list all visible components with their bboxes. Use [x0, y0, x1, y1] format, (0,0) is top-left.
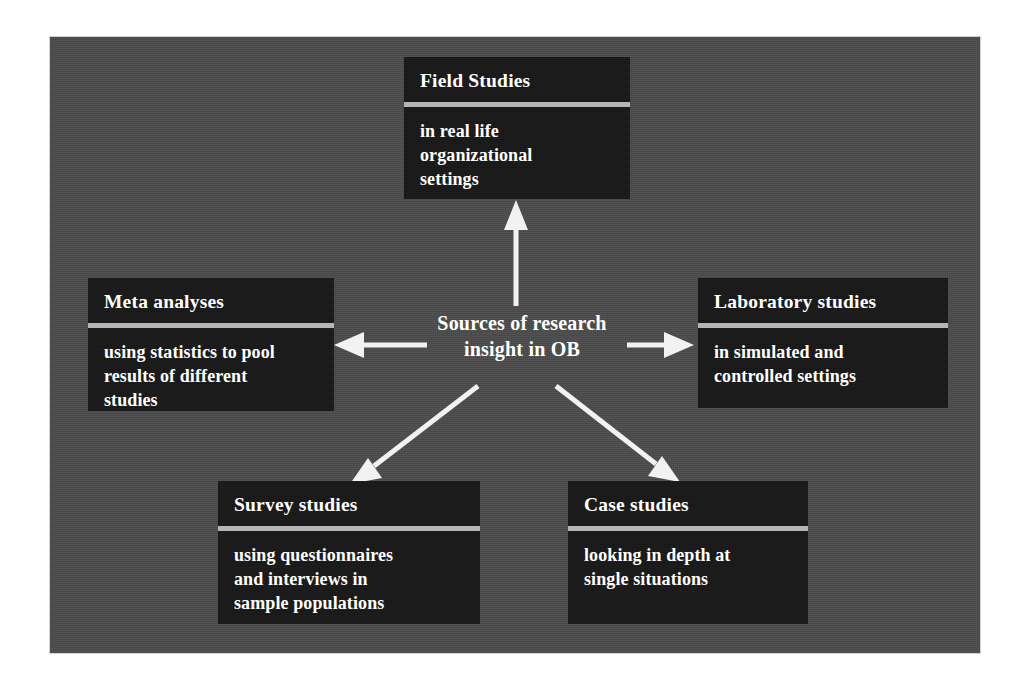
node-case-studies-body: looking in depth at single situations — [568, 531, 808, 604]
node-laboratory-studies-body: in simulated and controlled settings — [698, 328, 948, 401]
node-field-studies-body: in real life organizational settings — [404, 107, 630, 199]
node-survey-studies-body: using questionnaires and interviews in s… — [218, 531, 480, 624]
node-laboratory-studies[interactable]: Laboratory studies in simulated and cont… — [698, 278, 948, 408]
node-meta-analyses-title: Meta analyses — [88, 278, 334, 323]
node-field-studies[interactable]: Field Studies in real life organizationa… — [404, 57, 630, 199]
node-meta-analyses-body: using statistics to pool results of diff… — [88, 328, 334, 411]
node-laboratory-studies-title: Laboratory studies — [698, 278, 948, 323]
node-survey-studies[interactable]: Survey studies using questionnaires and … — [218, 481, 480, 624]
node-meta-analyses[interactable]: Meta analyses using statistics to pool r… — [88, 278, 334, 411]
node-case-studies[interactable]: Case studies looking in depth at single … — [568, 481, 808, 624]
node-field-studies-title: Field Studies — [404, 57, 630, 102]
node-case-studies-title: Case studies — [568, 481, 808, 526]
node-survey-studies-title: Survey studies — [218, 481, 480, 526]
center-label: Sources of research insight in OB — [398, 310, 646, 362]
diagram-canvas: Field Studies in real life organizationa… — [0, 0, 1032, 683]
